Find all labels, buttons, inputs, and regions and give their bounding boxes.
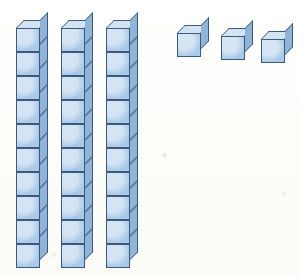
cube-front-face [16,172,40,196]
cube-front-face [16,244,40,268]
rod-2 [61,20,95,268]
cube-front-face [61,28,85,52]
cube-front-face [106,28,130,52]
cube-front-face [61,220,85,244]
cube-front-face [106,148,130,172]
cube-front-face [106,52,130,76]
cube-front-face [16,124,40,148]
rod-unit-cube [106,20,130,44]
cube-front-face [16,148,40,172]
cube-front-face [106,196,130,220]
cube-front-face [177,33,201,57]
cube-front-face [16,100,40,124]
unit-cube-2 [221,28,245,52]
rod-unit-cube [61,20,85,44]
cube-side-face [285,23,293,55]
cube-front-face [16,196,40,220]
cube-front-face [61,196,85,220]
cube-front-face [106,124,130,148]
cube-front-face [16,52,40,76]
cube-front-face [261,39,285,63]
cube-front-face [16,28,40,52]
figure-description: Three rods of ten unit cubes and three s… [0,0,1,1]
cube-front-face [61,148,85,172]
total-value: 33 [0,0,1,1]
rod-unit-cube [16,20,40,44]
cube-front-face [16,220,40,244]
unit-cube-3 [261,31,285,55]
cube-front-face [106,172,130,196]
rod-3 [106,20,140,268]
cube-front-face [106,100,130,124]
cube-side-face [201,17,209,49]
cube-front-face [221,36,245,60]
cube-front-face [106,76,130,100]
unit-cube-1 [177,25,201,49]
cube-front-face [16,76,40,100]
rod-1 [16,20,50,268]
cube-front-face [61,76,85,100]
illustration-canvas: Three rods of ten unit cubes and three s… [0,0,299,277]
cube-front-face [106,244,130,268]
cube-front-face [61,52,85,76]
cube-front-face [61,244,85,268]
cube-front-face [61,100,85,124]
cube-side-face [245,20,253,52]
cube-front-face [61,124,85,148]
cube-front-face [61,172,85,196]
cube-front-face [106,220,130,244]
